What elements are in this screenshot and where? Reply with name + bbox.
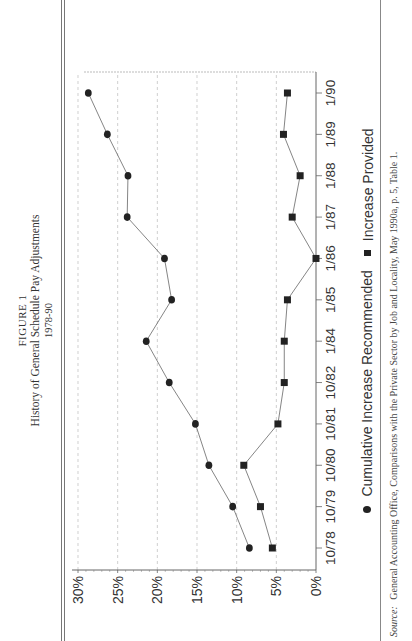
data-point-square bbox=[284, 296, 291, 303]
x-tick-label: 1/85 bbox=[323, 287, 338, 313]
series-line bbox=[88, 93, 249, 548]
x-tick-label: 10/79 bbox=[323, 490, 338, 524]
data-point-circle bbox=[192, 420, 199, 428]
y-tick-label: 5% bbox=[268, 576, 284, 596]
data-point-circle bbox=[143, 337, 150, 345]
data-point-square bbox=[284, 90, 291, 97]
source-label: Source: bbox=[388, 606, 399, 637]
data-point-square bbox=[297, 172, 304, 179]
x-tick-label: 10/80 bbox=[323, 448, 338, 482]
y-tick-label: 30% bbox=[70, 576, 86, 604]
legend-item-recommended: Cumulative Increase Recommended bbox=[359, 270, 375, 512]
data-point-circle bbox=[246, 544, 253, 552]
data-point-square bbox=[269, 545, 276, 552]
chart-legend: Cumulative Increase Recommended Increase… bbox=[358, 0, 376, 641]
data-point-circle bbox=[206, 461, 213, 469]
data-point-circle bbox=[125, 172, 132, 180]
y-tick-label: 15% bbox=[189, 576, 205, 604]
x-tick-label: 1/84 bbox=[323, 328, 338, 355]
legend-item-provided: Increase Provided bbox=[360, 128, 376, 256]
x-tick-label: 1/89 bbox=[323, 121, 338, 147]
data-point-square bbox=[280, 131, 287, 138]
line-chart: 0%5%10%15%20%25%30%10/7810/7910/8010/811… bbox=[0, 0, 412, 641]
series-line bbox=[244, 93, 316, 548]
circle-marker-icon bbox=[363, 506, 371, 513]
data-point-square bbox=[257, 503, 264, 510]
data-point-square bbox=[274, 420, 281, 427]
y-tick-label: 10% bbox=[229, 576, 245, 604]
data-point-circle bbox=[161, 255, 168, 263]
x-tick-label: 1/88 bbox=[323, 163, 338, 189]
data-point-square bbox=[281, 379, 288, 386]
x-tick-label: 1/86 bbox=[323, 245, 338, 271]
y-tick-label: 25% bbox=[110, 576, 126, 604]
source-text: General Accounting Office, Comparisons w… bbox=[388, 152, 399, 600]
data-point-circle bbox=[124, 213, 131, 221]
data-point-circle bbox=[166, 379, 173, 387]
data-point-square bbox=[289, 214, 296, 221]
bottom-rule bbox=[380, 0, 381, 641]
data-point-circle bbox=[168, 296, 175, 304]
x-tick-label: 1/90 bbox=[323, 80, 338, 106]
legend-label: Increase Provided bbox=[360, 128, 376, 241]
x-tick-label: 10/82 bbox=[323, 366, 338, 400]
data-point-circle bbox=[85, 89, 92, 97]
x-tick-label: 10/81 bbox=[323, 407, 338, 441]
y-tick-label: 20% bbox=[149, 576, 165, 604]
square-marker-icon bbox=[364, 250, 371, 256]
source-note: Source: General Accounting Office, Compa… bbox=[388, 0, 399, 637]
data-point-square bbox=[281, 338, 288, 345]
rotated-figure-page: FIGURE 1 History of General Schedule Pay… bbox=[0, 0, 412, 641]
x-tick-label: 10/78 bbox=[323, 531, 338, 565]
data-point-square bbox=[240, 462, 247, 469]
data-point-square bbox=[313, 255, 320, 262]
data-point-circle bbox=[229, 503, 236, 511]
data-point-circle bbox=[104, 131, 111, 139]
legend-label: Cumulative Increase Recommended bbox=[359, 270, 375, 496]
y-tick-label: 0% bbox=[308, 576, 324, 596]
x-tick-label: 1/87 bbox=[323, 204, 338, 230]
